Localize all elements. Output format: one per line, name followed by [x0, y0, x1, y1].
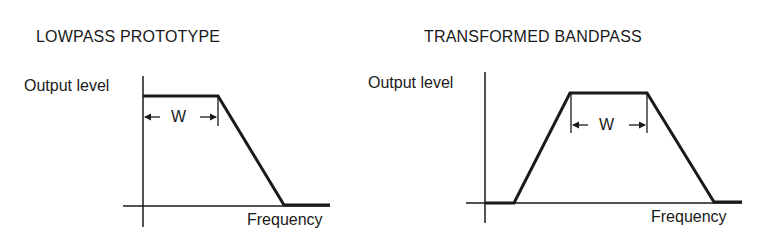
- bandpass-plot: [0, 0, 768, 240]
- bandpass-w-arrow-right: [629, 122, 646, 129]
- bandpass-response-curve: [485, 93, 742, 203]
- bandpass-diagram: TRANSFORMED BANDPASS Output level Freque…: [0, 0, 768, 240]
- bandpass-w-arrow-left: [572, 122, 588, 129]
- bandpass-w-label: W: [599, 116, 614, 134]
